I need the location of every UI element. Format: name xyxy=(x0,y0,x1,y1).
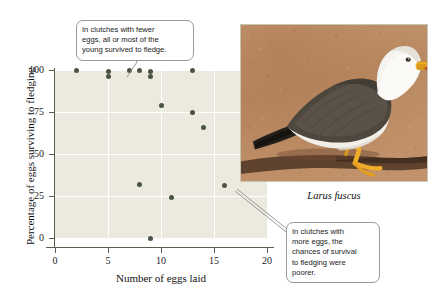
callout-fewer-line2: eggs, all or most of the xyxy=(82,35,188,45)
gridline-vertical xyxy=(161,70,162,238)
x-axis-tick-label: 15 xyxy=(199,256,229,266)
scatter-point xyxy=(148,236,153,241)
gridline-vertical xyxy=(214,70,215,238)
y-axis-tick xyxy=(49,70,54,71)
callout-more-line3: chances of survival xyxy=(292,247,374,257)
x-axis-tick-label: 20 xyxy=(252,256,282,266)
y-axis-tick xyxy=(49,154,54,155)
scatter-point xyxy=(201,125,206,130)
callout-fewer-line3: young survived to fledge. xyxy=(82,45,188,55)
scatter-plot-area xyxy=(55,70,267,238)
gull-photograph xyxy=(240,24,428,182)
x-axis-tick xyxy=(214,248,215,253)
scatter-point xyxy=(74,68,79,73)
scatter-point xyxy=(137,68,142,73)
scatter-point xyxy=(190,110,195,115)
x-axis-tick-label: 5 xyxy=(93,256,123,266)
figure-gull-clutch-survival: 025507510005101520 Number of eggs laid P… xyxy=(0,0,434,305)
scatter-point xyxy=(190,68,195,73)
x-axis-label: Number of eggs laid xyxy=(55,272,267,284)
gridline-vertical xyxy=(108,70,109,238)
scatter-point xyxy=(106,74,111,79)
callout-more-eggs: In clutches with more eggs, the chances … xyxy=(286,222,380,283)
scatter-point xyxy=(127,68,132,73)
x-axis-tick xyxy=(161,248,162,253)
callout-more-line1: In clutches with xyxy=(292,227,374,237)
scatter-point xyxy=(159,103,164,108)
gull-photo-illustration xyxy=(241,25,427,181)
y-axis-tick xyxy=(49,112,54,113)
x-axis-tick xyxy=(267,248,268,253)
callout-more-line4: to fledging were xyxy=(292,258,374,268)
x-axis-tick-label: 0 xyxy=(40,256,70,266)
x-axis-tick xyxy=(55,248,56,253)
y-axis-tick xyxy=(49,196,54,197)
x-axis-tick-label: 10 xyxy=(146,256,176,266)
photo-caption-species: Larus fuscus xyxy=(240,190,428,201)
callout-more-line5: poorer. xyxy=(292,268,374,278)
callout-fewer-line1: In clutches with fewer xyxy=(82,25,188,35)
x-axis-line xyxy=(46,247,274,248)
x-axis-tick xyxy=(108,248,109,253)
callout-more-line2: more eggs, the xyxy=(292,237,374,247)
y-axis-tick xyxy=(49,238,54,239)
callout-fewer-eggs: In clutches with fewer eggs, all or most… xyxy=(76,20,194,61)
y-axis-line xyxy=(54,68,55,248)
y-axis-label: Percentage of eggs surviving to fledging xyxy=(24,56,36,256)
